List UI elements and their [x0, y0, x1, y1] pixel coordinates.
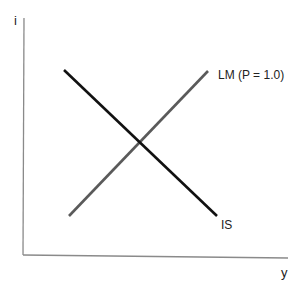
is-curve-label: IS: [221, 219, 232, 231]
y-axis-label: i: [14, 14, 17, 27]
is-curve: [64, 70, 217, 216]
x-axis-label: y: [281, 266, 288, 279]
lm-curve: [69, 71, 208, 216]
lm-curve-label: LM (P = 1.0): [218, 69, 284, 81]
islm-diagram: [0, 0, 303, 291]
y-axis: [23, 18, 24, 255]
x-axis: [23, 255, 288, 258]
